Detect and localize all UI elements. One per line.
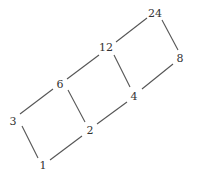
node-3: 3 bbox=[10, 115, 17, 128]
edge-1-2 bbox=[50, 136, 82, 160]
node-2: 2 bbox=[87, 124, 94, 137]
edge-6-12 bbox=[67, 55, 99, 79]
node-8: 8 bbox=[177, 52, 184, 65]
edge-4-8 bbox=[142, 64, 173, 89]
node-12: 12 bbox=[99, 41, 113, 54]
node-24: 24 bbox=[148, 7, 162, 20]
edge-3-6 bbox=[20, 89, 53, 114]
edge-8-24 bbox=[162, 20, 178, 50]
edge-1-3 bbox=[22, 126, 38, 158]
edges bbox=[20, 18, 178, 160]
node-6: 6 bbox=[57, 78, 64, 91]
edge-12-24 bbox=[116, 18, 147, 42]
edge-4-12 bbox=[114, 55, 130, 87]
node-1: 1 bbox=[40, 159, 47, 172]
hasse-diagram: 1 2 3 4 6 8 12 24 bbox=[0, 0, 197, 176]
edge-2-6 bbox=[68, 90, 85, 122]
node-4: 4 bbox=[131, 90, 138, 103]
edge-2-4 bbox=[97, 102, 127, 124]
nodes: 1 2 3 4 6 8 12 24 bbox=[10, 7, 184, 172]
